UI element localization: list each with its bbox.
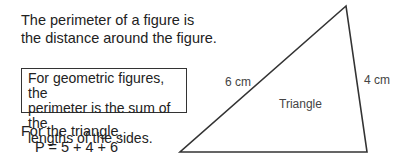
triangle-figure: [0, 0, 404, 156]
triangle-label: Triangle: [279, 97, 322, 111]
side-right-label: 4 cm: [364, 73, 390, 87]
side-left-label: 6 cm: [225, 75, 251, 89]
